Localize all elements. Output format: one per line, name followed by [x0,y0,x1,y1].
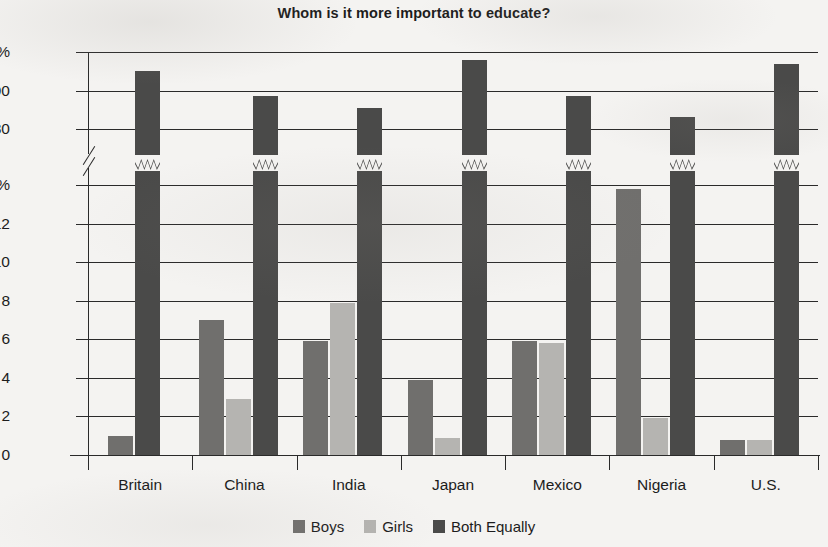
gridline [88,129,818,130]
bar-u-s--girls [747,440,772,455]
bar-fill [643,418,668,455]
y-axis-tick-mark [76,262,88,263]
x-axis-tick-mark [297,455,298,470]
bar-india-boys [303,341,328,455]
bar-nigeria-girls [643,418,668,455]
bar-axis-break-notch [670,155,695,171]
bar-axis-break-notch [357,155,382,171]
bar-axis-break-notch [566,155,591,171]
bar-axis-break-notch [462,155,487,171]
chart-title: Whom is it more important to educate? [0,5,828,21]
y-axis-tick-label: 2 [0,408,10,424]
bar-mexico-girls [539,343,564,455]
bar-axis-break-notch [774,155,799,171]
axis-break-symbol [76,146,102,176]
x-axis-line [70,455,820,456]
bar-axis-break-notch [253,155,278,171]
x-axis-tick-mark [192,455,193,470]
y-axis-tick-label: 0 [0,447,10,463]
y-axis-tick-label: 6 [0,331,10,347]
bar-fill [720,440,745,455]
bar-fill [512,341,537,455]
bar-mexico-boys [512,341,537,455]
y-axis-tick-mark [76,52,88,53]
bar-mexico-both-equally [566,96,591,455]
bar-nigeria-both-equally [670,117,695,455]
y-axis-line [88,52,89,455]
gridline [88,416,818,417]
y-axis-tick-mark [76,185,88,186]
bar-britain-boys [108,436,133,455]
gridline [88,301,818,302]
bar-fill [135,71,160,455]
bar-china-boys [199,320,224,455]
y-axis-tick-mark [76,224,88,225]
legend-swatch-icon [433,520,445,533]
y-axis-tick-label: 14% [0,177,10,193]
x-axis-tick-mark [818,455,819,470]
legend-item-girls: Girls [364,518,413,535]
y-axis-tick-label: 4 [0,370,10,386]
bar-china-girls [226,399,251,455]
bar-fill [747,440,772,455]
legend-swatch-icon [293,520,305,533]
gridline [88,185,818,186]
legend-label: Girls [382,518,413,535]
chart-legend: BoysGirlsBoth Equally [0,518,828,535]
bar-u-s--boys [720,440,745,455]
x-axis-tick-mark [88,455,89,470]
bar-japan-girls [435,438,460,455]
y-axis-tick-label: 12 [0,216,10,232]
bar-fill [462,60,487,455]
bar-u-s--both-equally [774,64,799,455]
bar-axis-break-notch [135,155,160,171]
y-axis-tick-label: 10 [0,254,10,270]
legend-item-both-equally: Both Equally [433,518,535,535]
bar-fill [330,303,355,455]
bar-fill [435,438,460,455]
bar-fill [253,96,278,455]
y-axis-tick-mark [76,301,88,302]
bar-japan-both-equally [462,60,487,455]
y-axis-tick-mark [76,416,88,417]
bar-fill [774,64,799,455]
bar-fill [566,96,591,455]
legend-swatch-icon [364,520,376,533]
y-axis-tick-label: 80 [0,121,10,137]
x-axis-label-u-s-: U.S. [696,476,828,494]
bar-fill [616,189,641,455]
gridline [88,262,818,263]
y-axis-tick-label: 8 [0,293,10,309]
bar-fill [303,341,328,455]
bar-fill [226,399,251,455]
plot-area [88,52,818,455]
legend-item-boys: Boys [293,518,344,535]
gridline [88,378,818,379]
y-axis-tick-mark [76,129,88,130]
x-axis-tick-mark [505,455,506,470]
y-axis-tick-mark [76,339,88,340]
gridline [88,52,818,53]
gridline [88,339,818,340]
bar-nigeria-boys [616,189,641,455]
bar-fill [199,320,224,455]
bar-fill [108,436,133,455]
y-axis-tick-label: 90 [0,83,10,99]
y-axis-tick-mark [76,378,88,379]
gridline [88,91,818,92]
bar-japan-boys [408,380,433,455]
gridline [88,224,818,225]
bar-fill [408,380,433,455]
x-axis-tick-mark [714,455,715,470]
legend-label: Boys [311,518,344,535]
y-axis-tick-label: 100% [0,44,10,60]
bar-india-both-equally [357,108,382,455]
x-axis-tick-mark [401,455,402,470]
bar-fill [539,343,564,455]
bar-china-both-equally [253,96,278,455]
bar-india-girls [330,303,355,455]
x-axis-tick-mark [609,455,610,470]
legend-label: Both Equally [451,518,535,535]
bar-britain-both-equally [135,71,160,455]
y-axis-tick-mark [76,91,88,92]
